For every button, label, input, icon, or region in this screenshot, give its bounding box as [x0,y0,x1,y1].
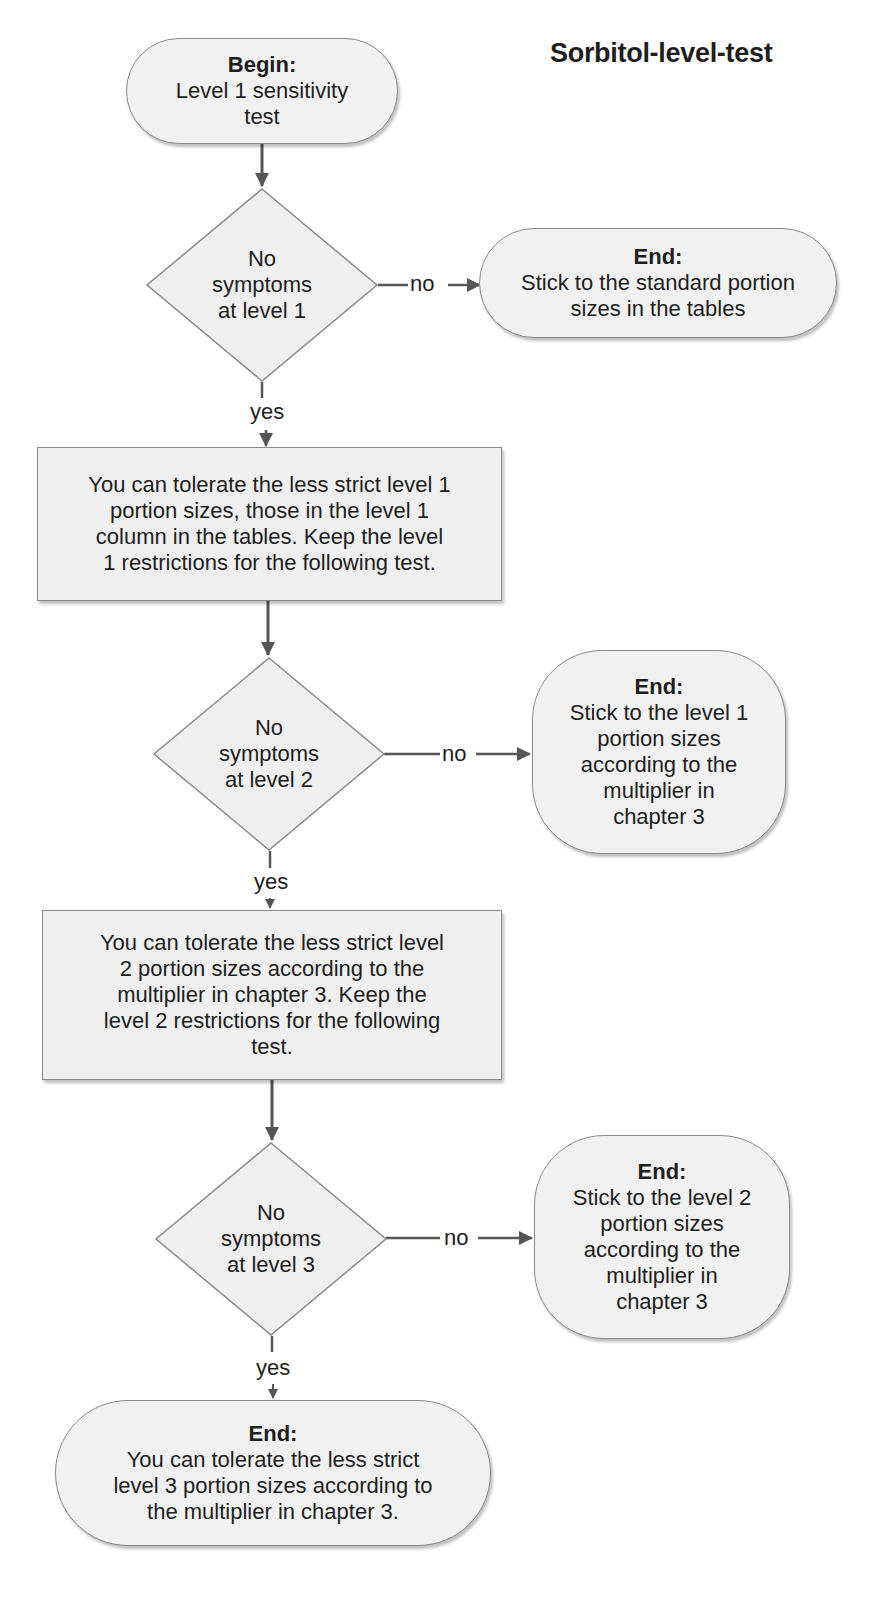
decision-level-2: No symptoms at level 2 [153,657,385,851]
end-text-line: Stick to the standard portion [521,270,795,296]
diagram-title: Sorbitol-level-test [550,38,772,69]
result-text-line: 1 restrictions for the following test. [103,550,436,576]
end-node-level-2: End: Stick to the level 2 portion sizes … [534,1135,790,1339]
decision-text-line: symptoms [212,272,312,298]
decision-text-line: No [257,1200,285,1226]
result-text-line: level 2 restrictions for the following [104,1008,440,1034]
begin-text-line: test [244,104,279,130]
end-text-line: level 3 portion sizes according to [113,1473,432,1499]
end-heading: End: [249,1421,298,1447]
edge-label-no: no [408,272,436,296]
end-heading: End: [634,244,683,270]
end-text-line: chapter 3 [613,804,705,830]
end-text-line: chapter 3 [616,1289,708,1315]
end-node-level-1: End: Stick to the level 1 portion sizes … [532,650,786,854]
begin-node: Begin: Level 1 sensitivity test [126,38,398,144]
end-text-line: sizes in the tables [571,296,746,322]
result-text-line: 2 portion sizes according to the [120,956,425,982]
decision-text-line: at level 3 [227,1252,315,1278]
end-text-line: multiplier in [603,778,714,804]
result-text-line: multiplier in chapter 3. Keep the [117,982,426,1008]
begin-text-line: Level 1 sensitivity [176,78,348,104]
edge-label-yes: yes [252,870,290,894]
result-level-2: You can tolerate the less strict level 2… [42,910,502,1080]
decision-text-line: No [248,246,276,272]
begin-heading: Begin: [228,52,296,78]
end-text-line: You can tolerate the less strict [127,1447,420,1473]
result-text-line: You can tolerate the less strict level [100,930,444,956]
end-node-level-3: End: You can tolerate the less strict le… [55,1400,491,1546]
decision-text-line: at level 2 [225,767,313,793]
edge-label-no: no [440,742,468,766]
decision-level-3: No symptoms at level 3 [155,1142,387,1336]
result-text-line: portion sizes, those in the level 1 [110,498,429,524]
end-text-line: Stick to the level 2 [573,1185,752,1211]
end-text-line: portion sizes [597,726,721,752]
edge-label-yes: yes [248,400,286,424]
result-text-line: You can tolerate the less strict level 1 [88,472,450,498]
decision-text-line: No [255,715,283,741]
edge-label-yes: yes [254,1356,292,1380]
decision-text-line: symptoms [221,1226,321,1252]
result-level-1: You can tolerate the less strict level 1… [37,447,502,601]
end-text-line: the multiplier in chapter 3. [147,1499,399,1525]
end-heading: End: [638,1159,687,1185]
end-node-standard: End: Stick to the standard portion sizes… [479,228,837,338]
decision-text-line: symptoms [219,741,319,767]
decision-level-1: No symptoms at level 1 [146,188,378,382]
result-text-line: column in the tables. Keep the level [96,524,443,550]
end-heading: End: [635,674,684,700]
edge-label-no: no [442,1226,470,1250]
end-text-line: according to the [581,752,738,778]
end-text-line: according to the [584,1237,741,1263]
end-text-line: Stick to the level 1 [570,700,749,726]
end-text-line: multiplier in [606,1263,717,1289]
result-text-line: test. [251,1034,293,1060]
decision-text-line: at level 1 [218,298,306,324]
end-text-line: portion sizes [600,1211,724,1237]
